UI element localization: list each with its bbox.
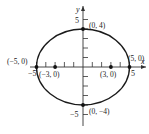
x-tick-neg5: −5 bbox=[28, 69, 37, 78]
label-top: (0, 4) bbox=[89, 21, 106, 30]
label-left: (−5, 0) bbox=[7, 57, 28, 66]
focus-left bbox=[53, 65, 57, 69]
point-bottom bbox=[81, 103, 85, 107]
y-tick-5: 5 bbox=[75, 16, 79, 25]
label-focus-right: (3, 0) bbox=[100, 70, 117, 79]
label-focus-left: (−3, 0) bbox=[39, 70, 60, 79]
point-top bbox=[81, 27, 85, 31]
label-right: (5, 0) bbox=[128, 54, 145, 63]
y-tick-neg5: −5 bbox=[70, 110, 79, 119]
ellipse-diagram: y x 5 −5 −5 5 (0, 4) (0, −4) (−5, 0) (5,… bbox=[0, 0, 149, 134]
focus-right bbox=[109, 65, 113, 69]
y-axis-arrow-icon bbox=[81, 6, 85, 11]
label-bottom: (0, −4) bbox=[89, 107, 110, 116]
y-axis-label: y bbox=[75, 5, 80, 14]
x-tick-5: 5 bbox=[131, 69, 135, 78]
